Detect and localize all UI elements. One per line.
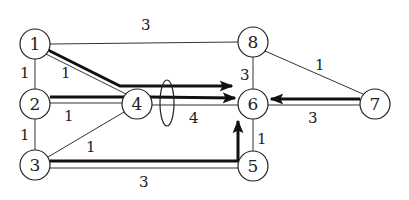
node-4: 4 (122, 89, 152, 119)
edge-1-8 (50, 42, 238, 44)
node-3: 3 (20, 150, 50, 180)
flow-path-2-4-6-b (150, 97, 235, 98)
weight-5-6: 1 (257, 130, 267, 148)
node-2: 2 (20, 89, 50, 119)
node-7: 7 (360, 89, 390, 119)
weight-7-6: 3 (308, 109, 318, 127)
node-label: 5 (248, 156, 259, 176)
node-label: 3 (30, 155, 41, 175)
node-label: 8 (248, 32, 259, 52)
edges-thin (35, 42, 363, 168)
weight-2-3: 1 (20, 126, 30, 144)
flow-path-3-5-6 (50, 121, 238, 161)
edge-8-7 (265, 51, 363, 94)
node-8: 8 (238, 27, 268, 57)
weight-4-6: 4 (189, 109, 199, 127)
node-6: 6 (238, 89, 268, 119)
weight-8-7: 1 (315, 56, 325, 74)
weight-1-4: 1 (61, 64, 71, 82)
graph-diagram: 3 1 1 1 1 1 3 4 3 1 3 1 1 2 3 4 5 6 7 (0, 0, 409, 200)
node-label: 4 (132, 94, 143, 114)
flow-path-1-4-6 (48, 50, 232, 86)
node-5: 5 (238, 151, 268, 181)
node-label: 1 (30, 34, 41, 54)
node-label: 6 (248, 94, 259, 114)
weight-1-2: 1 (20, 64, 30, 82)
node-label: 7 (370, 94, 381, 114)
weight-2-4: 1 (64, 107, 74, 125)
node-label: 2 (30, 94, 41, 114)
weight-3-4: 1 (86, 138, 96, 156)
weight-8-6: 3 (240, 66, 250, 84)
weight-1-8: 3 (141, 16, 151, 34)
edge-1-4 (46, 54, 126, 94)
node-1: 1 (20, 29, 50, 59)
weight-3-5: 3 (139, 173, 149, 191)
